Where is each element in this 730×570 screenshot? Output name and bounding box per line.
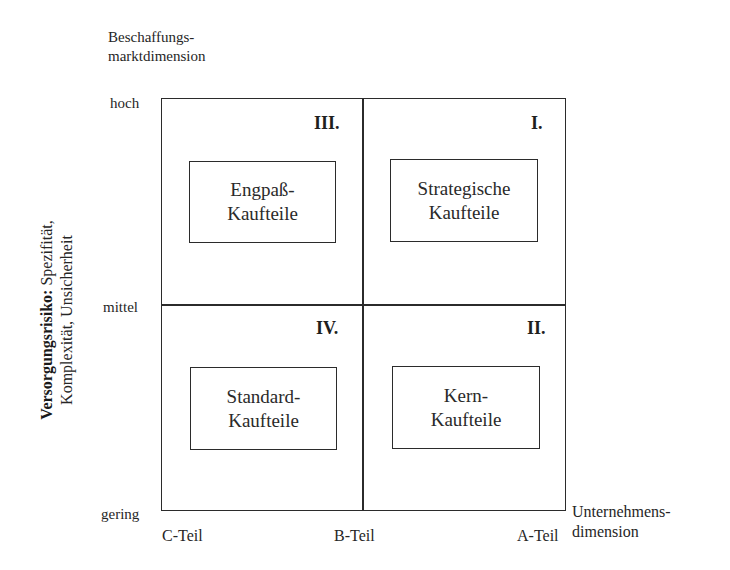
y-dimension-label: Beschaffungs- marktdimension [108, 28, 206, 66]
matrix-horizontal-divider [161, 304, 566, 306]
quadrant-numeral-i: I. [531, 113, 543, 134]
x-dimension-label: Unternehmens- dimension [572, 502, 671, 542]
y-axis-title-rest: Spezifität, [38, 220, 55, 289]
x-dimension-label-line2: dimension [572, 522, 671, 542]
y-dimension-label-line1: Beschaffungs- [108, 28, 206, 47]
x-tick-a-teil: A-Teil [517, 526, 559, 545]
y-dimension-label-line2: marktdimension [108, 47, 206, 66]
box-line1: Engpaß- [230, 178, 294, 202]
y-axis-title: Versorgungsrisiko: Spezifität, Komplexit… [37, 220, 77, 419]
box-line1: Standard- [227, 385, 301, 409]
quadrant-numeral-iii: III. [314, 113, 340, 134]
quadrant-box-kern-kaufteile: Kern- Kaufteile [392, 366, 540, 449]
x-dimension-label-line1: Unternehmens- [572, 502, 671, 522]
y-tick-gering: gering [101, 505, 139, 524]
box-line2: Kaufteile [431, 408, 502, 432]
box-line2: Kaufteile [429, 201, 500, 225]
quadrant-numeral-ii: II. [527, 318, 546, 339]
y-tick-hoch: hoch [110, 94, 139, 113]
y-axis-title-line1: Versorgungsrisiko: Spezifität, [37, 220, 57, 419]
box-line2: Kaufteile [227, 202, 298, 226]
x-tick-c-teil: C-Teil [162, 526, 203, 545]
y-tick-mittel: mittel [103, 298, 138, 317]
quadrant-box-strategische-kaufteile: Strategische Kaufteile [390, 159, 538, 242]
box-line1: Kern- [444, 384, 488, 408]
quadrant-box-engpass-kaufteile: Engpaß- Kaufteile [189, 161, 336, 243]
box-line1: Strategische [418, 177, 511, 201]
y-axis-title-bold: Versorgungsrisiko: [38, 290, 55, 420]
quadrant-box-standard-kaufteile: Standard- Kaufteile [190, 367, 337, 450]
x-tick-b-teil: B-Teil [334, 526, 375, 545]
quadrant-numeral-iv: IV. [316, 318, 338, 339]
box-line2: Kaufteile [228, 409, 299, 433]
y-axis-title-line2: Komplexität, Unsicherheit [57, 220, 77, 419]
